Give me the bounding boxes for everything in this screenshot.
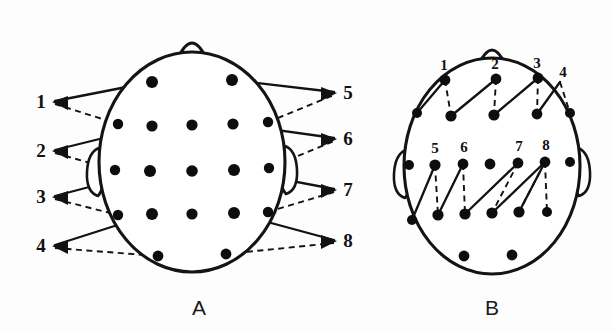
electrode: [263, 117, 273, 127]
lead-number-1: 1: [36, 91, 46, 112]
chain-number-5: 5: [431, 140, 439, 156]
panel-b-caption: B: [485, 296, 499, 319]
electrode: [459, 208, 470, 219]
eeg-montage-figure: 1 2 3 4 5 6 7 8 A: [0, 0, 614, 333]
chain-number-2: 2: [491, 56, 499, 72]
electrode: [146, 76, 158, 88]
electrode: [186, 119, 197, 130]
electrode: [542, 207, 552, 217]
electrode: [429, 159, 440, 170]
electrode: [540, 157, 551, 168]
electrode: [532, 109, 543, 120]
chain-number-6: 6: [460, 139, 468, 155]
lead-number-2: 2: [36, 140, 46, 161]
panel-a-head-outline: [99, 52, 285, 272]
electrode: [513, 158, 524, 169]
electrode: [113, 210, 123, 220]
electrode: [513, 206, 524, 217]
electrode: [144, 165, 156, 177]
electrode: [263, 207, 273, 217]
lead-number-4: 4: [36, 235, 46, 256]
electrode: [226, 74, 238, 86]
electrode: [565, 108, 575, 118]
electrode: [146, 120, 157, 131]
electrode: [459, 251, 470, 262]
electrode: [227, 118, 238, 129]
electrode: [407, 215, 417, 225]
electrode: [228, 164, 240, 176]
lead-number-3: 3: [36, 186, 46, 207]
chain-number-1: 1: [440, 57, 448, 73]
electrode: [412, 108, 422, 118]
electrode: [110, 165, 120, 175]
chain-number-7: 7: [515, 138, 523, 154]
electrode: [533, 73, 544, 84]
electrode: [440, 75, 451, 86]
chain-number-4: 4: [559, 64, 567, 80]
electrode: [486, 207, 497, 218]
chain-number-8: 8: [542, 137, 550, 153]
electrode: [186, 165, 198, 177]
electrode: [432, 209, 443, 220]
electrode: [491, 74, 502, 85]
electrode: [445, 110, 456, 121]
electrode: [458, 159, 469, 170]
electrode: [264, 163, 274, 173]
lead-number-8: 8: [343, 230, 353, 251]
electrode: [221, 249, 232, 260]
electrode: [488, 109, 499, 120]
electrode: [507, 250, 518, 261]
electrode: [228, 207, 240, 219]
chain-number-3: 3: [533, 55, 541, 71]
lead-number-7: 7: [343, 179, 353, 200]
electrode: [153, 251, 164, 262]
electrode: [404, 160, 414, 170]
panel-a-caption: A: [192, 296, 206, 319]
electrode: [485, 159, 496, 170]
electrode: [113, 119, 123, 129]
lead-number-6: 6: [343, 128, 353, 149]
electrode: [186, 208, 197, 219]
figure-canvas: 1 2 3 4 5 6 7 8 A: [0, 0, 614, 333]
electrode: [565, 157, 575, 167]
lead-number-5: 5: [343, 82, 353, 103]
electrode: [146, 208, 158, 220]
